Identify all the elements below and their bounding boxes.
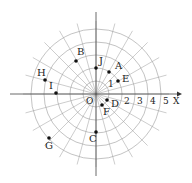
- point-a: A: [107, 60, 123, 74]
- point-b: B: [74, 46, 84, 63]
- point-i: I: [49, 80, 58, 95]
- tick-label-5: 5: [163, 96, 169, 106]
- axis-labels: O 1 2 3 4 5 X: [86, 79, 180, 106]
- tick-label-2: 2: [124, 96, 130, 106]
- point-label: D: [111, 98, 119, 109]
- points: ABCDEFGHIJ: [37, 46, 129, 151]
- point-label: H: [37, 67, 46, 78]
- point-dot: [107, 70, 111, 74]
- point-j: J: [94, 55, 103, 70]
- point-c: C: [89, 130, 98, 144]
- point-dot: [74, 59, 78, 63]
- point-label: F: [103, 106, 110, 117]
- origin-label: O: [86, 96, 93, 106]
- point-label: I: [49, 80, 53, 91]
- tick-label-4: 4: [150, 96, 156, 106]
- point-dot: [105, 98, 109, 102]
- point-e: E: [116, 73, 129, 84]
- point-label: A: [114, 60, 123, 71]
- point-label: J: [98, 55, 103, 66]
- point-label: G: [45, 140, 53, 151]
- tick-label-3: 3: [137, 96, 143, 106]
- point-label: E: [122, 73, 129, 84]
- tick-label-1: 1: [108, 79, 114, 89]
- point-dot: [116, 79, 120, 83]
- axes: [10, 12, 182, 176]
- grid-spoke: [60, 31, 97, 94]
- point-label: C: [89, 133, 97, 144]
- point-dot: [94, 66, 98, 70]
- point-label: B: [77, 46, 84, 57]
- point-dot: [54, 91, 58, 95]
- polar-diagram: O 1 2 3 4 5 X ABCDEFGHIJ: [0, 0, 192, 183]
- point-dot: [43, 78, 47, 82]
- x-axis-label: X: [173, 96, 180, 106]
